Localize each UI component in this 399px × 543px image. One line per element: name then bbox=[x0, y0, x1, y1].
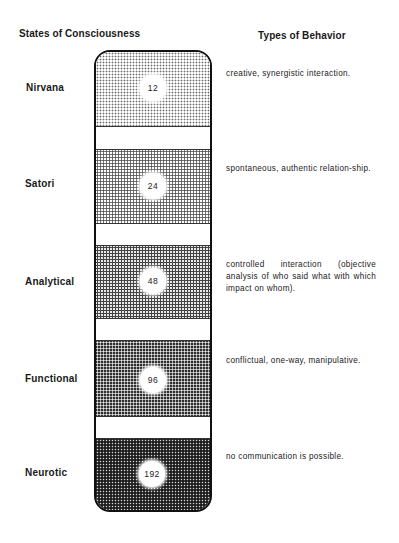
state-label-functional: Functional bbox=[25, 373, 78, 384]
segment-neurotic: 192 bbox=[96, 439, 210, 512]
states-of-consciousness-header: States of Consciousness bbox=[19, 28, 140, 39]
segment-nirvana: 12 bbox=[96, 52, 210, 126]
value-badge-satori: 24 bbox=[140, 173, 166, 199]
separator-gap bbox=[96, 126, 210, 150]
behavior-functional: conflictual, one-way, manipulative. bbox=[226, 355, 376, 367]
value-badge-neurotic: 192 bbox=[139, 461, 165, 487]
state-label-satori: Satori bbox=[25, 178, 55, 189]
state-label-neurotic: Neurotic bbox=[25, 467, 67, 478]
separator-gap bbox=[96, 318, 210, 341]
segment-analytical: 48 bbox=[96, 246, 210, 318]
separator-gap bbox=[96, 416, 210, 439]
segment-functional: 96 bbox=[96, 341, 210, 416]
behavior-nirvana: creative, synergistic interaction. bbox=[226, 68, 376, 80]
state-label-nirvana: Nirvana bbox=[26, 82, 64, 93]
value-badge-functional: 96 bbox=[140, 367, 166, 393]
behavior-neurotic: no communication is possible. bbox=[226, 451, 376, 463]
value-badge-nirvana: 12 bbox=[140, 75, 166, 101]
separator-gap bbox=[96, 223, 210, 246]
behavior-satori: spontaneous, authentic relation-ship. bbox=[226, 163, 376, 175]
types-of-behavior-header: Types of Behavior bbox=[258, 30, 346, 41]
behavior-analytical: controlled interaction (objective analys… bbox=[226, 259, 376, 295]
segment-satori: 24 bbox=[96, 150, 210, 223]
state-label-analytical: Analytical bbox=[25, 276, 74, 287]
value-badge-analytical: 48 bbox=[140, 268, 166, 294]
consciousness-scale-bar: 12 24 48 96 192 bbox=[94, 50, 212, 512]
